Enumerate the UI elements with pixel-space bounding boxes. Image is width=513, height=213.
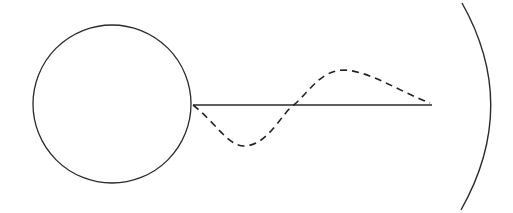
circle-shape [33,25,191,183]
mirror-arc [461,3,491,210]
dashed-wave-curve [193,70,430,146]
diagram-canvas [0,0,513,213]
